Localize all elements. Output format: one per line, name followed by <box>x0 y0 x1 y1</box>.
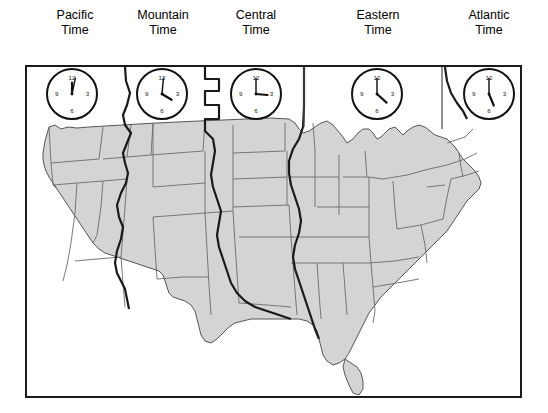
clock-face-pacific: 12 3 6 9 <box>48 70 96 118</box>
clock-face-central: 12 3 6 9 <box>232 70 280 118</box>
clock-numeral-6: 6 <box>375 107 379 114</box>
clock-center-dot <box>161 93 164 96</box>
clock-hour-hand <box>256 94 268 95</box>
clock-numeral-3: 3 <box>270 90 274 97</box>
clock-center-dot <box>376 93 379 96</box>
clock-face-eastern: 12 3 6 9 <box>353 70 401 118</box>
florida-detail <box>343 359 363 395</box>
zone-label-line2: Time <box>318 23 438 38</box>
zone-label-eastern: Eastern Time <box>318 8 438 38</box>
clock-pacific: 12 3 6 9 <box>46 68 98 120</box>
zone-label-central: Central Time <box>196 8 316 38</box>
clock-numeral-3: 3 <box>86 90 90 97</box>
zone-label-line1: Atlantic <box>429 8 548 23</box>
clock-face-mountain: 12 3 6 9 <box>138 70 186 118</box>
clock-numeral-9: 9 <box>472 90 476 97</box>
zone-label-line1: Central <box>196 8 316 23</box>
clock-numeral-12: 12 <box>159 74 166 81</box>
clock-numeral-9: 9 <box>55 90 59 97</box>
us-landmass <box>43 118 481 365</box>
clock-eastern: 12 3 6 9 <box>351 68 403 120</box>
clock-numeral-6: 6 <box>487 107 491 114</box>
clock-numeral-6: 6 <box>254 107 258 114</box>
clock-central: 12 3 6 9 <box>230 68 282 120</box>
clock-atlantic: 12 3 6 9 <box>463 68 515 120</box>
clock-numeral-9: 9 <box>145 90 149 97</box>
clock-center-dot <box>488 93 491 96</box>
clock-numeral-3: 3 <box>391 90 395 97</box>
clock-numeral-9: 9 <box>239 90 243 97</box>
zone-label-line2: Time <box>429 23 548 38</box>
clock-numeral-6: 6 <box>70 107 74 114</box>
clock-numeral-3: 3 <box>503 90 507 97</box>
zone-label-line1: Eastern <box>318 8 438 23</box>
clock-center-dot <box>255 93 258 96</box>
zone-label-line2: Time <box>196 23 316 38</box>
clock-center-dot <box>71 93 74 96</box>
clock-numeral-6: 6 <box>160 107 164 114</box>
clock-mountain: 12 3 6 9 <box>136 68 188 120</box>
clock-numeral-3: 3 <box>176 90 180 97</box>
clock-face-atlantic: 12 3 6 9 <box>465 70 513 118</box>
zone-label-row: Pacific Time Mountain Time Central Time … <box>0 8 548 56</box>
zone-label-atlantic: Atlantic Time <box>429 8 548 38</box>
clock-numeral-9: 9 <box>360 90 364 97</box>
time-zone-figure: Pacific Time Mountain Time Central Time … <box>0 0 548 413</box>
